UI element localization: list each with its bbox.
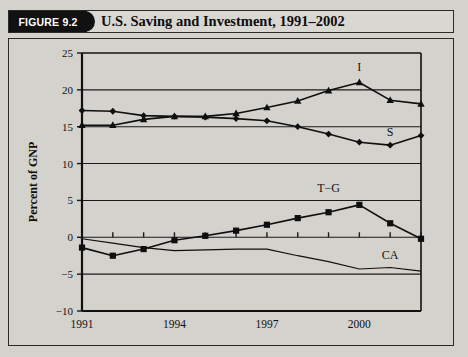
- x-tick-labels: 1991199419972000: [71, 318, 372, 330]
- data-point-square: [110, 253, 116, 259]
- series-label: CA: [382, 248, 399, 262]
- data-point-triangle: [386, 96, 393, 103]
- figure-number-tab: FIGURE 9.2: [9, 11, 87, 32]
- data-point-diamond: [109, 108, 116, 115]
- data-point-square: [202, 233, 208, 239]
- x-ticks: [82, 232, 421, 237]
- series-S: S: [79, 107, 425, 148]
- series-line: [82, 205, 421, 256]
- y-tick-label: 0: [68, 231, 74, 243]
- series-label: S: [387, 125, 394, 139]
- data-point-square: [171, 237, 177, 243]
- saving-investment-line-chart: −10−505101520251991199419972000Percent o…: [9, 39, 455, 347]
- y-tick-label: 20: [62, 84, 74, 96]
- data-point-square: [325, 209, 331, 215]
- data-point-diamond: [264, 117, 271, 124]
- series-I: I: [78, 60, 424, 128]
- data-point-diamond: [79, 107, 86, 114]
- y-tick-label: 5: [68, 194, 74, 206]
- y-tick-label: −5: [61, 268, 73, 280]
- data-point-square: [418, 236, 424, 242]
- data-point-square: [295, 215, 301, 221]
- data-point-diamond: [387, 142, 394, 149]
- data-point-square: [264, 222, 270, 228]
- y-tick-label: 10: [62, 158, 74, 170]
- data-point-square: [356, 202, 362, 208]
- figure-header: FIGURE 9.2 U.S. Saving and Investment, 1…: [8, 10, 454, 33]
- axes: [82, 53, 421, 311]
- chart-frame: −10−505101520251991199419972000Percent o…: [8, 38, 454, 346]
- x-tick-label: 1997: [255, 318, 278, 330]
- y-gridlines: −10−50510152025: [56, 47, 421, 317]
- series-CA: CA: [82, 239, 421, 271]
- series-TG: T−G: [79, 181, 424, 259]
- data-point-diamond: [356, 139, 363, 146]
- data-point-square: [79, 245, 85, 251]
- figure-root: FIGURE 9.2 U.S. Saving and Investment, 1…: [0, 0, 468, 357]
- y-tick-label: −10: [56, 305, 74, 317]
- chart-plot-area: −10−505101520251991199419972000Percent o…: [9, 39, 455, 347]
- y-tick-label: 25: [62, 47, 74, 59]
- series-line: [82, 110, 421, 145]
- series-line: [82, 239, 421, 271]
- x-tick-label: 2000: [348, 318, 371, 330]
- data-point-diamond: [294, 123, 301, 130]
- data-point-square: [233, 228, 239, 234]
- data-point-diamond: [325, 131, 332, 138]
- y-axis-title: Percent of GNP: [26, 142, 40, 222]
- data-point-diamond: [418, 132, 425, 139]
- data-point-triangle: [356, 79, 363, 86]
- x-tick-label: 1994: [163, 318, 186, 330]
- x-tick-label: 1991: [71, 318, 94, 330]
- data-point-square: [387, 220, 393, 226]
- series-label: I: [357, 60, 361, 74]
- series-label: T−G: [317, 181, 340, 195]
- figure-title: U.S. Saving and Investment, 1991–2002: [101, 11, 345, 32]
- series-line: [82, 82, 421, 125]
- y-tick-label: 15: [62, 121, 74, 133]
